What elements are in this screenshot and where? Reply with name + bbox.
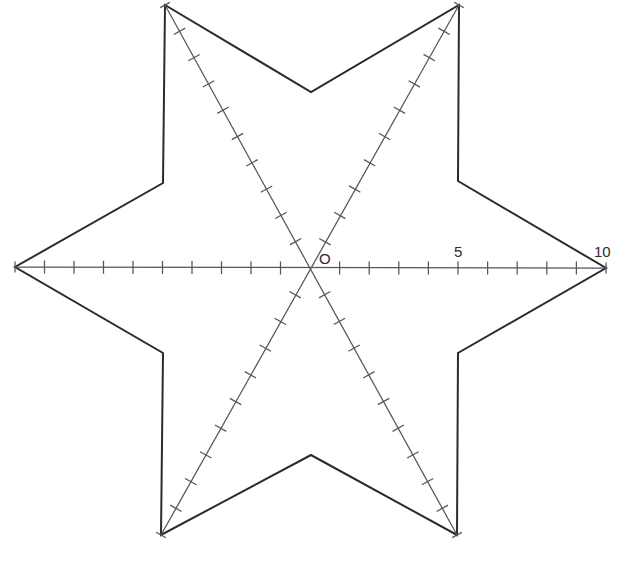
lower-left-arm-tick-7 [200, 452, 211, 458]
lower-right-arm-tick-2 [334, 318, 345, 324]
lower-right-arm-tick-9 [437, 505, 448, 511]
upper-left-arm-tick-7 [203, 81, 214, 87]
upper-left-arm-tick-2 [275, 212, 286, 218]
lower-left-arm-tick-8 [185, 478, 196, 484]
upper-left-arm-tick-6 [217, 107, 228, 113]
upper-right-arm-tick-7 [409, 81, 420, 87]
origin-label: O [319, 250, 331, 267]
lower-right-arm-tick-5 [378, 398, 389, 404]
upper-right-to-lower-left-axis [156, 2, 464, 537]
upper-left-arm-tick-8 [188, 54, 199, 60]
horizontal-axis [15, 261, 606, 275]
upper-right-arm-tick-6 [394, 107, 405, 113]
lower-left-arm-tick-6 [215, 425, 226, 431]
tick-label-5: 5 [454, 243, 462, 260]
tick-label-10: 10 [594, 243, 611, 260]
axis-labels-group: O 5 10 [319, 243, 611, 267]
upper-right-arm-tick-9 [438, 28, 449, 34]
lower-right-arm-tick-4 [363, 372, 374, 378]
upper-left-arm-tick-9 [174, 28, 185, 34]
lower-right-arm-tick-1 [319, 292, 330, 298]
lower-right-arm-tick-3 [348, 345, 359, 351]
lower-right-arm-tick-7 [407, 452, 418, 458]
lower-left-arm-tick-9 [170, 505, 181, 511]
upper-left-arm-tick-4 [246, 160, 257, 166]
star-figure-canvas: O 5 10 [0, 0, 630, 587]
star-figure-svg: O 5 10 [0, 0, 630, 587]
lower-right-arm-tick-8 [422, 478, 433, 484]
upper-right-arm-tick-8 [424, 54, 435, 60]
upper-left-arm-tick-3 [261, 186, 272, 192]
upper-left-arm-tick-1 [290, 239, 301, 245]
axes-group [15, 2, 606, 537]
upper-left-arm-tick-5 [232, 133, 243, 139]
upper-left-to-lower-right-axis [160, 2, 462, 537]
lower-right-arm-tick-6 [393, 425, 404, 431]
